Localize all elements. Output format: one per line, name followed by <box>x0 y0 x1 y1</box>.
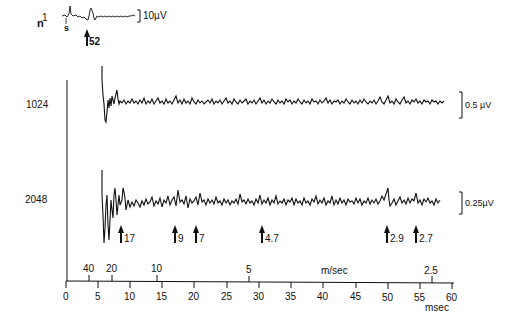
velocity-tick-40: 40 <box>83 264 94 274</box>
velocity-tick-5: 5 <box>246 265 252 275</box>
velocity-tick-10: 10 <box>151 264 162 274</box>
x-tick-25: 25 <box>221 292 232 302</box>
x-tick-55: 55 <box>414 293 425 303</box>
x-tick-45: 45 <box>350 292 361 302</box>
x-tick-50: 50 <box>382 293 393 303</box>
arrow-label-4-7: 4.7 <box>265 234 279 244</box>
x-tick-40: 40 <box>317 292 328 302</box>
x-unit-label: msec <box>425 303 449 313</box>
scale-label-0-5uv: 0.5 µV <box>465 100 491 110</box>
arrow-label-17: 17 <box>124 234 135 244</box>
velocity-tick-20: 20 <box>106 264 117 274</box>
row-label-2048: 2048 <box>25 195 47 205</box>
row-label-1024: 1024 <box>26 100 48 110</box>
row-label-1: 1 <box>42 13 48 23</box>
x-tick-0: 0 <box>63 292 69 302</box>
velocity-unit-label: m/sec <box>321 266 348 276</box>
trace-n1024 <box>102 66 444 122</box>
x-tick-35: 35 <box>285 292 296 302</box>
scale-label-0-25uv: 0.25µV <box>465 198 494 208</box>
arrow-label-52: 52 <box>89 37 100 47</box>
x-tick-20: 20 <box>188 292 199 302</box>
evoked-potential-figure <box>0 0 518 325</box>
arrow-label-2-9: 2.9 <box>390 234 404 244</box>
x-tick-5: 5 <box>95 292 101 302</box>
scale-bar-0-25uv <box>459 192 462 214</box>
scale-label-10uv: 10µV <box>143 11 167 21</box>
x-tick-30: 30 <box>253 292 264 302</box>
x-tick-15: 15 <box>156 292 167 302</box>
trace-n1 <box>62 6 135 20</box>
arrow-label-2-7: 2.7 <box>419 234 433 244</box>
scale-bar-10uv <box>137 10 140 22</box>
arrow-label-9: 9 <box>178 234 184 244</box>
x-axis-line <box>66 281 454 283</box>
scale-bar-0-5uv <box>459 92 462 118</box>
x-tick-10: 10 <box>124 292 135 302</box>
stimulus-label: s <box>64 23 69 33</box>
velocity-tick-2-5: 2.5 <box>424 266 438 276</box>
arrow-label-7: 7 <box>199 234 205 244</box>
